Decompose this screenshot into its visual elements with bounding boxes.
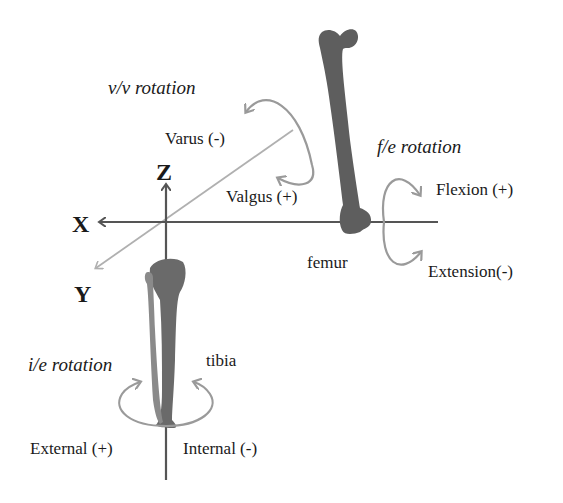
ie-rotation-title: i/e rotation [28,355,112,374]
fe-rotation-title: f/e rotation [377,137,461,156]
x-axis-label: X [72,212,89,236]
extension-label: Extension(-) [428,263,513,280]
vv-rotation-title: v/v rotation [108,78,195,97]
femur-label: femur [307,254,348,271]
femur-bone [319,29,371,234]
flexion-label: Flexion (+) [436,181,513,198]
vv-rotation-arrow-lower [278,165,313,184]
external-label: External (+) [30,440,113,457]
tibia-label: tibia [206,352,236,369]
valgus-label: Valgus (+) [226,188,297,205]
z-axis-label: Z [156,160,172,184]
fe-rotation-arrow-lower [383,222,421,265]
y-axis-label: Y [74,282,91,306]
fe-rotation-arrow-upper [383,179,420,222]
knee-coordinate-diagram [0,0,563,503]
varus-label: Varus (-) [165,130,225,147]
internal-label: Internal (-) [183,440,257,457]
tibia-bone [145,259,186,428]
